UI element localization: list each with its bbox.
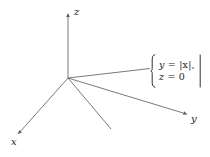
z-axis-label: z — [74, 7, 79, 17]
graph-ray-negative-branch — [68, 78, 111, 129]
equation-1-lhs: y — [159, 59, 165, 70]
coordinate-axes-figure: z x y y = |x|, z = 0 — [0, 0, 210, 157]
equation-1-rhs: = |x|, — [168, 59, 195, 70]
equation-system-annotation: y = |x|, z = 0 — [150, 54, 204, 88]
equation-2-lhs: z — [159, 71, 164, 82]
brace-left-icon — [150, 54, 156, 88]
vertical-bar-icon — [198, 54, 204, 88]
graph-ray-positive-branch — [68, 69, 150, 79]
equation-2-rhs: = 0 — [167, 71, 185, 82]
x-axis-label: x — [11, 137, 17, 147]
equation-row: z = 0 — [159, 72, 195, 82]
y-axis-label: y — [191, 114, 197, 124]
equation-list: y = |x|, z = 0 — [156, 54, 198, 88]
equation-row: y = |x|, — [159, 60, 195, 70]
x-axis-line — [19, 78, 69, 134]
